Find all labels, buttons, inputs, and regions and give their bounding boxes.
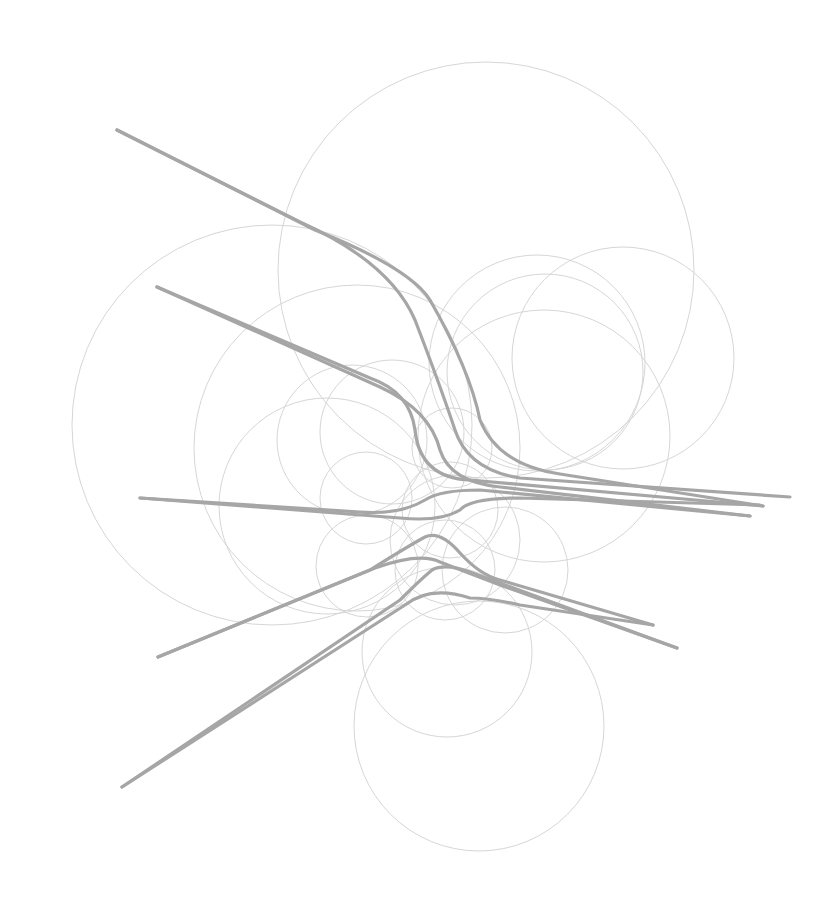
- circle-node: [320, 452, 412, 544]
- circle-node: [316, 515, 418, 617]
- circle-node: [320, 360, 464, 504]
- circle-node: [447, 274, 643, 470]
- network-diagram: [0, 0, 839, 914]
- circle-node: [354, 601, 604, 851]
- edge-line: [157, 287, 763, 506]
- circle-node: [72, 225, 472, 625]
- circle-layer: [72, 62, 734, 851]
- circle-node: [277, 365, 427, 515]
- edge-line: [122, 593, 653, 787]
- circle-node: [512, 247, 734, 469]
- edge-layer: [117, 130, 790, 787]
